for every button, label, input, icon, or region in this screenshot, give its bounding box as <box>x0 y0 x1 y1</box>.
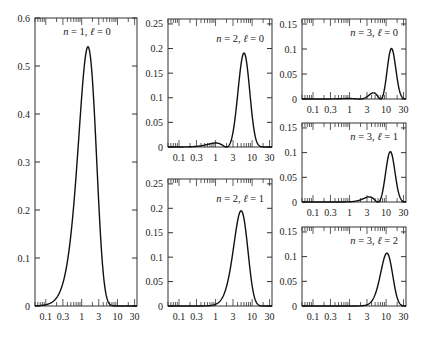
y-tick-label: 0.15 <box>280 122 298 133</box>
x-tick-label: 30 <box>399 207 409 218</box>
y-tick-label: 0.05 <box>146 276 164 287</box>
panel-label: n = 1, ℓ = 0 <box>63 26 111 37</box>
x-tick-label: 1 <box>347 207 352 218</box>
panel-label: n = 3, ℓ = 2 <box>350 235 398 246</box>
x-tick-label: 3 <box>230 311 235 322</box>
probability-curve <box>168 211 272 306</box>
x-tick-label: 10 <box>112 311 122 322</box>
probability-curve <box>35 47 137 306</box>
x-tick-label: 10 <box>381 207 391 218</box>
x-tick-label: 10 <box>381 311 391 322</box>
x-tick-label: 30 <box>399 311 409 322</box>
x-tick-label: 30 <box>265 152 275 163</box>
y-tick-label: 0.25 <box>146 178 164 189</box>
y-tick-label: 0.05 <box>280 69 298 80</box>
subplot-n3-l1: 00.050.10.150.10.3131030n = 3, ℓ = 1 <box>280 122 409 218</box>
y-tick-label: 0.25 <box>146 18 164 29</box>
y-tick-label: 0.2 <box>151 203 164 214</box>
x-tick-label: 0.1 <box>40 311 53 322</box>
y-tick-label: 0 <box>292 301 297 312</box>
y-tick-label: 0.4 <box>18 109 31 120</box>
x-tick-label: 1 <box>347 311 352 322</box>
subplot-n3-l2: 00.050.10.150.10.3131030n = 3, ℓ = 2 <box>280 226 409 322</box>
y-tick-label: 0 <box>158 301 163 312</box>
y-tick-label: 0.6 <box>18 13 31 24</box>
subplot-n3-l0: 00.050.10.150.10.3131030n = 3, ℓ = 0 <box>280 19 409 116</box>
y-tick-label: 0.1 <box>18 253 31 264</box>
panel-label: n = 2, ℓ = 1 <box>216 193 264 204</box>
x-tick-label: 3 <box>364 311 369 322</box>
x-tick-label: 0.1 <box>307 104 320 115</box>
x-tick-label: 3 <box>96 311 101 322</box>
y-tick-label: 0.15 <box>280 226 298 237</box>
x-tick-label: 10 <box>247 152 257 163</box>
x-tick-label: 0.1 <box>173 311 186 322</box>
y-tick-label: 0.2 <box>151 43 164 54</box>
x-tick-label: 1 <box>213 152 218 163</box>
x-tick-label: 0.3 <box>190 311 203 322</box>
y-tick-label: 0.1 <box>151 92 164 103</box>
probability-curve <box>302 152 406 202</box>
subplot-n2-l0: 00.050.10.150.20.250.10.3131030n = 2, ℓ … <box>146 18 275 163</box>
y-tick-label: 0.2 <box>18 205 31 216</box>
probability-curve <box>168 53 272 147</box>
panel-label: n = 3, ℓ = 0 <box>350 27 398 38</box>
x-tick-label: 30 <box>130 311 140 322</box>
x-tick-label: 3 <box>364 104 369 115</box>
x-tick-label: 0.3 <box>324 311 337 322</box>
x-tick-label: 0.3 <box>190 152 203 163</box>
y-tick-label: 0.15 <box>280 19 298 30</box>
x-tick-label: 3 <box>364 207 369 218</box>
y-tick-label: 0.1 <box>285 44 298 55</box>
chart-canvas: 00.10.20.30.40.50.60.10.3131030n = 1, ℓ … <box>0 0 428 339</box>
y-tick-label: 0.1 <box>285 147 298 158</box>
probability-curve <box>302 253 406 306</box>
x-tick-label: 30 <box>399 104 409 115</box>
y-tick-label: 0.05 <box>146 117 164 128</box>
x-tick-label: 0.1 <box>307 311 320 322</box>
probability-curve <box>302 49 406 100</box>
y-tick-label: 0.05 <box>280 172 298 183</box>
plot-frame <box>35 18 137 306</box>
subplot-n1-l0: 00.10.20.30.40.50.60.10.3131030n = 1, ℓ … <box>18 13 140 323</box>
y-tick-label: 0 <box>25 301 30 312</box>
x-tick-label: 1 <box>347 104 352 115</box>
y-tick-label: 0.1 <box>151 252 164 263</box>
x-tick-label: 0.1 <box>307 207 320 218</box>
x-tick-label: 0.3 <box>324 104 337 115</box>
x-tick-label: 3 <box>230 152 235 163</box>
x-tick-label: 0.3 <box>57 311 70 322</box>
y-tick-label: 0.3 <box>18 157 31 168</box>
x-tick-label: 10 <box>247 311 257 322</box>
radial-probability-figure: 00.10.20.30.40.50.60.10.3131030n = 1, ℓ … <box>0 0 428 339</box>
x-tick-label: 0.1 <box>173 152 186 163</box>
y-tick-label: 0 <box>292 197 297 208</box>
panel-label: n = 2, ℓ = 0 <box>216 33 264 44</box>
y-tick-label: 0.1 <box>285 251 298 262</box>
x-tick-label: 0.3 <box>324 207 337 218</box>
x-tick-label: 1 <box>79 311 84 322</box>
y-tick-label: 0 <box>292 94 297 105</box>
y-tick-label: 0 <box>158 142 163 153</box>
x-tick-label: 1 <box>213 311 218 322</box>
y-tick-label: 0.15 <box>146 68 164 79</box>
x-tick-label: 30 <box>265 311 275 322</box>
y-tick-label: 0.5 <box>18 61 31 72</box>
y-tick-label: 0.15 <box>146 227 164 238</box>
y-tick-label: 0.05 <box>280 276 298 287</box>
x-tick-label: 10 <box>381 104 391 115</box>
panel-label: n = 3, ℓ = 1 <box>350 131 398 142</box>
subplot-n2-l1: 00.050.10.150.20.250.10.3131030n = 2, ℓ … <box>146 178 275 322</box>
